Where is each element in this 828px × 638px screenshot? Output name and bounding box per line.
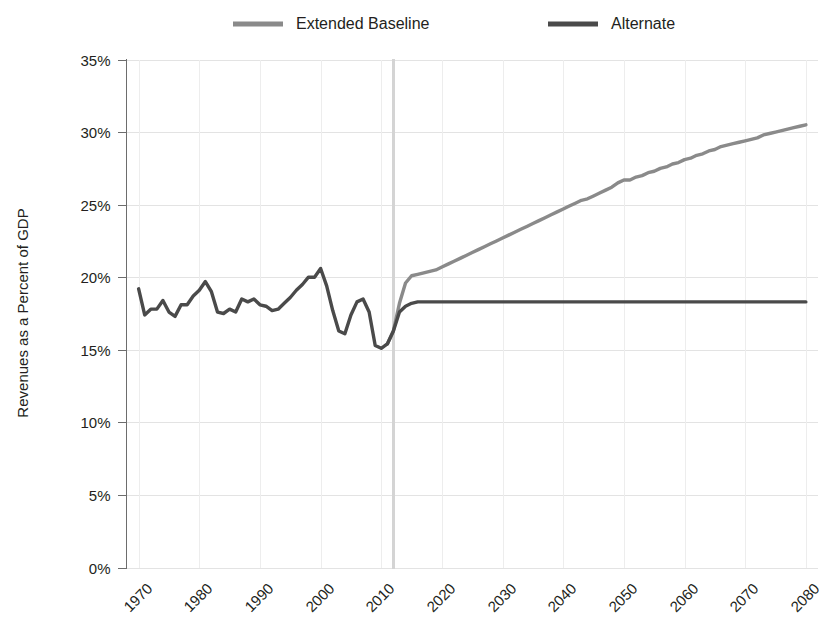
y-axis-ticks: 0%5%10%15%20%25%30%35%	[80, 52, 126, 577]
y-tick-label: 5%	[89, 487, 111, 504]
series-line-alternate	[139, 269, 806, 349]
revenues-gdp-chart: Extended Baseline Alternate 0%5%10%15%20…	[0, 0, 828, 638]
y-axis-title: Revenues as a Percent of GDP	[14, 208, 31, 417]
x-axis-ticks: 1970198019902000201020202030204020502060…	[120, 580, 823, 616]
vertical-grid-lines	[140, 60, 807, 568]
y-tick-label: 0%	[89, 560, 111, 577]
y-tick-label: 35%	[80, 52, 110, 69]
x-tick-label: 2070	[726, 580, 762, 616]
chart-canvas: Extended Baseline Alternate 0%5%10%15%20…	[0, 0, 828, 638]
grid-lines	[127, 61, 819, 569]
x-tick-label: 2000	[302, 580, 338, 616]
x-tick-label: 1970	[120, 580, 156, 616]
x-tick-label: 2080	[787, 580, 823, 616]
legend-label-extended-baseline: Extended Baseline	[296, 15, 430, 32]
x-tick-label: 2030	[484, 580, 520, 616]
legend-label-alternate: Alternate	[611, 15, 675, 32]
series-line-extended-baseline	[387, 125, 806, 344]
series-lines	[139, 125, 806, 349]
legend: Extended Baseline Alternate	[233, 15, 675, 32]
y-tick-label: 10%	[80, 414, 110, 431]
x-tick-label: 2050	[605, 580, 641, 616]
x-tick-label: 2020	[423, 580, 459, 616]
x-tick-label: 2060	[666, 580, 702, 616]
x-tick-label: 1990	[241, 580, 277, 616]
x-tick-label: 2040	[544, 580, 580, 616]
y-tick-label: 25%	[80, 197, 110, 214]
x-tick-label: 2010	[362, 580, 398, 616]
x-tick-label: 1980	[180, 580, 216, 616]
y-tick-label: 20%	[80, 269, 110, 286]
y-tick-label: 15%	[80, 342, 110, 359]
y-tick-label: 30%	[80, 124, 110, 141]
